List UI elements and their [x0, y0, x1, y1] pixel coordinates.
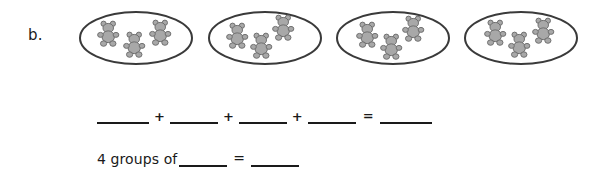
sentence-equals-sign: =	[233, 151, 245, 165]
equals-sign: =	[363, 109, 374, 122]
bear-group-3	[335, 9, 451, 67]
bear-groups-row	[78, 9, 590, 69]
addend-3-blank[interactable]	[239, 109, 287, 124]
total-answer-blank[interactable]	[251, 152, 299, 167]
groups-of-prefix-text: 4 groups of	[97, 152, 177, 166]
addition-equation-line: + + + =	[97, 104, 432, 124]
plus-sign-1: +	[154, 110, 165, 123]
bear-group-4	[463, 9, 579, 67]
worksheet-problem-b: b.	[0, 0, 597, 177]
group-size-blank[interactable]	[179, 152, 227, 167]
bear-group-1	[78, 9, 194, 67]
bear-group-2	[207, 9, 323, 67]
plus-sign-3: +	[292, 110, 303, 123]
addend-1-blank[interactable]	[97, 109, 149, 124]
addend-4-blank[interactable]	[308, 109, 356, 124]
problem-letter-label: b.	[28, 26, 43, 44]
plus-sign-2: +	[223, 110, 234, 123]
groups-of-sentence-line: 4 groups of =	[97, 147, 301, 167]
addend-2-blank[interactable]	[170, 109, 218, 124]
sum-answer-blank[interactable]	[380, 109, 432, 124]
